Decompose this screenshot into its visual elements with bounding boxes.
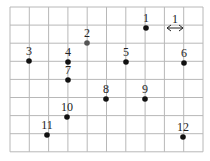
scale-marker-label: 1	[172, 12, 178, 26]
point-dot	[103, 96, 109, 102]
point-label: 10	[61, 100, 73, 114]
point-dot	[26, 58, 32, 64]
point-dot	[142, 96, 148, 102]
point-dot	[84, 40, 90, 46]
point-grid-diagram: 1 123456789101112	[0, 0, 210, 161]
point-9: 9	[142, 82, 148, 102]
point-label: 3	[26, 44, 32, 58]
point-dot	[180, 134, 186, 140]
point-label: 9	[142, 82, 148, 96]
point-12: 12	[177, 120, 189, 140]
scale-marker: 1	[167, 12, 183, 31]
point-8: 8	[103, 82, 109, 102]
point-dot	[181, 60, 187, 66]
point-4: 4	[65, 45, 71, 65]
point-7: 7	[65, 63, 71, 83]
point-dot	[44, 132, 50, 138]
point-6: 6	[181, 46, 187, 66]
point-label: 2	[84, 26, 90, 40]
point-11: 11	[41, 118, 53, 138]
point-label: 5	[123, 45, 129, 59]
point-label: 6	[181, 46, 187, 60]
point-label: 11	[41, 118, 53, 132]
grid	[10, 7, 203, 152]
point-label: 1	[143, 11, 149, 25]
point-dot	[64, 114, 70, 120]
point-label: 7	[65, 63, 71, 77]
point-label: 4	[65, 45, 71, 59]
point-2: 2	[84, 26, 90, 46]
point-3: 3	[26, 44, 32, 64]
point-dot	[143, 25, 149, 31]
point-label: 8	[103, 82, 109, 96]
point-dot	[65, 77, 71, 83]
point-label: 12	[177, 120, 189, 134]
point-5: 5	[123, 45, 129, 65]
point-10: 10	[61, 100, 73, 120]
point-dot	[123, 59, 129, 65]
point-1: 1	[143, 11, 149, 31]
